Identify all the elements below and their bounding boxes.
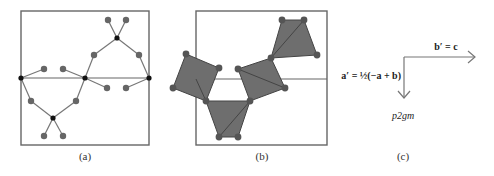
axis-arrows (398, 51, 475, 98)
tetrahedron-bottom (206, 101, 250, 137)
b-prime-label: b′ = c (434, 41, 458, 52)
panel-c-caption: (c) (397, 150, 410, 163)
panel-b: (b) (170, 11, 327, 163)
atom-icon (73, 98, 79, 104)
tetrahedron-middle (238, 58, 285, 101)
atom-icon (41, 66, 47, 72)
panel-a-caption: (a) (79, 150, 92, 163)
atom-icon (216, 65, 223, 72)
atom-icon (235, 66, 242, 73)
panel-c: b′ = c a′ = ½(−a + b) p2gm (c) (341, 41, 475, 163)
atom-icon (60, 133, 66, 139)
atom-icon (123, 85, 129, 91)
atom-icon (301, 17, 308, 24)
atom-icon (203, 98, 210, 105)
atom-icon (235, 134, 242, 141)
atom-icon (41, 133, 47, 139)
a-prime-label: a′ = ½(−a + b) (341, 70, 401, 82)
atom-icon (60, 66, 66, 72)
tetrahedron-left (173, 54, 219, 101)
atom-icon (279, 17, 286, 24)
atom-icon (123, 17, 129, 23)
atom-icon (247, 98, 254, 105)
space-group-label: p2gm (391, 110, 414, 121)
panel-b-caption: (b) (256, 150, 269, 163)
atom-icon (91, 52, 97, 58)
cation-icon (146, 75, 151, 80)
atom-icon (104, 85, 110, 91)
atom-icon (314, 52, 321, 59)
tetrahedron-top-right (271, 20, 317, 58)
cation-icon (18, 75, 23, 80)
panel-a: (a) (18, 11, 151, 163)
cation-icon (50, 115, 55, 120)
atom-icon (282, 85, 289, 92)
atom-icon (268, 55, 275, 62)
atom-icon (216, 134, 223, 141)
figure-canvas: (a) (0, 0, 494, 176)
atom-icon (28, 98, 34, 104)
cation-icon (114, 35, 119, 40)
atom-icon (136, 52, 142, 58)
atom-icon (183, 51, 190, 58)
atom-icon (105, 17, 111, 23)
cation-icon (82, 75, 87, 80)
atom-icon (170, 85, 177, 92)
